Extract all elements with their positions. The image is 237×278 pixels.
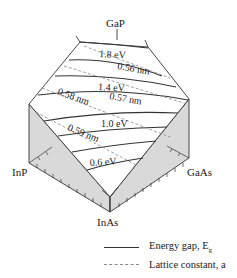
legend-item-lattice-constant: Lattice constant, a [104, 257, 237, 271]
legend-label-subscript: g [209, 246, 213, 254]
quaternary-alloy-diagram: GaP InP GaAs InAs 1.8 eV 1.4 eV 1.0 eV 0… [0, 0, 237, 240]
vertex-label-inas: InAs [97, 216, 118, 228]
vertex-label-gaas: GaAs [187, 166, 212, 178]
legend: Energy gap, Eg Lattice constant, a [104, 240, 237, 274]
legend-label-lattice-constant: Lattice constant, a [149, 259, 226, 270]
top-left-ridge-extension [76, 36, 80, 42]
legend-label-text: Energy gap, E [149, 240, 209, 251]
legend-label-energy-gap: Energy gap, Eg [149, 240, 212, 254]
legend-item-energy-gap: Energy gap, Eg [104, 240, 237, 254]
vertex-label-gap: GaP [106, 17, 125, 29]
energy-gap-label-3: 1.0 eV [101, 118, 128, 129]
top-right-ridge-extension [145, 40, 148, 47]
energy-gap-label-1: 1.8 eV [99, 48, 127, 60]
energy-gap-label-4: 0.6 eV [89, 155, 117, 168]
dashed-line-swatch [104, 264, 139, 265]
solid-line-swatch [104, 247, 139, 248]
vertex-label-inp: InP [12, 166, 27, 178]
